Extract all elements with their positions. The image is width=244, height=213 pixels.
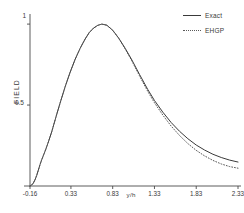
y-tick-label-0-5: 0.5 — [10, 99, 24, 106]
x-axis-title: y/h — [127, 191, 136, 198]
series-line-ehgp — [30, 24, 238, 186]
series-line-exact — [30, 24, 238, 186]
x-tick-label-3: 1.33 — [141, 190, 167, 197]
legend-item-exact: Exact — [183, 8, 241, 23]
y-axis-title: FIELD — [13, 70, 20, 114]
x-tick-label-2: 0.83 — [100, 190, 126, 197]
x-tick-label-5: 2.33 — [225, 190, 244, 197]
legend-item-ehgp: EHGP — [183, 23, 241, 38]
x-tick-label-0: -0.16 — [17, 190, 43, 197]
legend-swatch-dotted-line-icon — [183, 30, 201, 32]
legend-label-ehgp: EHGP — [205, 26, 224, 35]
x-tick-label-1: 0.33 — [58, 190, 84, 197]
chart-legend: Exact EHGP — [183, 8, 241, 38]
y-tick-label-1: 1 — [12, 12, 26, 19]
axes-group — [24, 14, 241, 186]
x-tick-label-4: 1.83 — [183, 190, 209, 197]
legend-label-exact: Exact — [205, 11, 222, 20]
figure-chart-field-vs-yh: Exact EHGP FIELD 1 0.5 -0.160.330.831.33… — [0, 0, 244, 213]
legend-swatch-solid-line-icon — [183, 15, 201, 17]
